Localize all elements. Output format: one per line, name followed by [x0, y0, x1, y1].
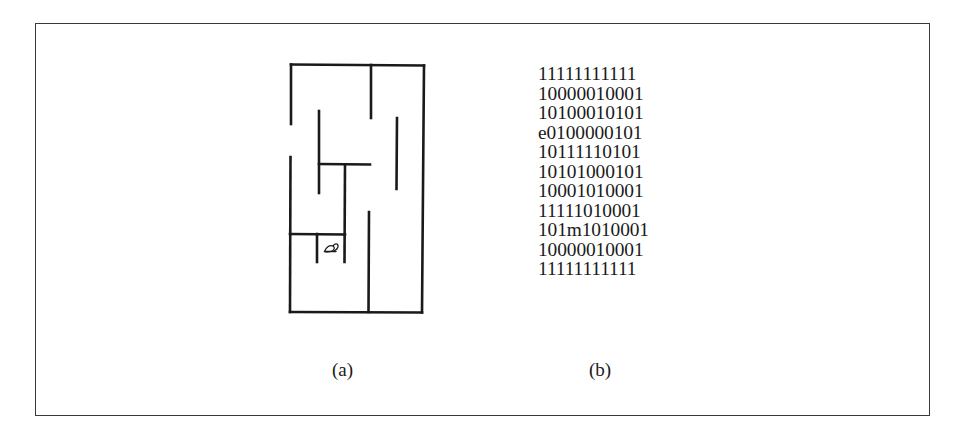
grid-row-entrance: e0100000101	[538, 123, 649, 143]
caption-b: (b)	[589, 359, 611, 381]
caption-a: (a)	[332, 359, 353, 381]
maze-wall-right	[422, 66, 424, 313]
grid-row: 10101000101	[538, 162, 649, 182]
mouse-icon	[325, 244, 339, 252]
grid-row: 10001010001	[538, 181, 649, 201]
grid-row: 11111010001	[538, 201, 649, 221]
maze-diagram	[0, 0, 965, 439]
grid-row: 10000010001	[538, 240, 649, 260]
maze-wall-top	[291, 65, 424, 66]
maze-wall-bottom	[290, 312, 422, 313]
grid-row: 10000010001	[538, 84, 649, 104]
grid-row: 10100010101	[538, 103, 649, 123]
grid-row: 10111110101	[538, 142, 649, 162]
binary-grid: 11111111111 10000010001 10100010101 e010…	[538, 64, 649, 279]
grid-row: 11111111111	[538, 64, 649, 84]
maze-wall-inner	[397, 118, 398, 189]
maze-wall-inner	[345, 165, 346, 263]
grid-row: 11111111111	[538, 259, 649, 279]
maze-wall-inner	[369, 212, 370, 312]
grid-row-mouse: 101m1010001	[538, 220, 649, 240]
